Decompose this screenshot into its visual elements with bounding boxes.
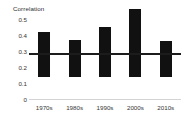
y-tick-label: 0 (1, 96, 27, 103)
bar-1980s (69, 40, 81, 77)
average-reference-line (29, 53, 181, 55)
bar-series (29, 0, 181, 100)
x-tick-label-1980s: 1980s (59, 104, 89, 112)
correlation-bar-chart: Correlation 0.5 0.4 0.3 0.2 0.1 0 (0, 0, 187, 123)
x-tick-label-2010s: 2010s (151, 104, 181, 112)
y-tick-label: 0.1 (1, 80, 27, 87)
x-tick-label-2000s: 2000s (120, 104, 150, 112)
y-tick-label: 0.4 (1, 32, 27, 39)
bar-2000s (129, 9, 141, 76)
y-axis: 0.5 0.4 0.3 0.2 0.1 0 (0, 0, 27, 123)
y-tick-label: 0.2 (1, 64, 27, 71)
x-axis: 1970s 1980s 1990s 2000s 2010s (29, 104, 181, 116)
bar-2010s (160, 41, 172, 76)
y-tick-label: 0.5 (1, 16, 27, 23)
bar-1990s (99, 27, 111, 77)
y-tick-label: 0.3 (1, 48, 27, 55)
x-tick-label-1990s: 1990s (90, 104, 120, 112)
x-tick-label-1970s: 1970s (29, 104, 59, 112)
